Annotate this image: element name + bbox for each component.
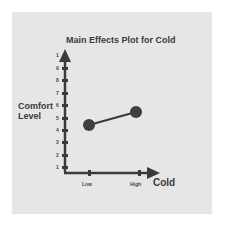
- y-tick-label: 1: [56, 52, 59, 58]
- y-tick-label: 8: [56, 77, 59, 83]
- y-tick-label: 4: [56, 127, 59, 133]
- y-tick-label: 2: [56, 152, 59, 158]
- x-tick-low: [88, 170, 91, 176]
- x-tick-label-low: Low: [82, 181, 92, 187]
- y-tick-label: 9: [56, 65, 59, 71]
- y-tick-label: 1: [56, 164, 59, 170]
- y-tick-label: 7: [56, 90, 59, 96]
- x-tick-high: [138, 170, 141, 176]
- chart-svg: [0, 0, 225, 225]
- y-tick-label: 5: [56, 115, 59, 121]
- effect-line: [89, 112, 136, 125]
- x-tick-label-high: High: [130, 181, 141, 187]
- x-axis-arrow-icon: [147, 167, 160, 179]
- y-axis-arrow-icon: [59, 49, 71, 62]
- data-point-high: [130, 106, 142, 118]
- y-tick-label: 6: [56, 102, 59, 108]
- y-tick-label: 3: [56, 139, 59, 145]
- data-point-low: [83, 119, 95, 131]
